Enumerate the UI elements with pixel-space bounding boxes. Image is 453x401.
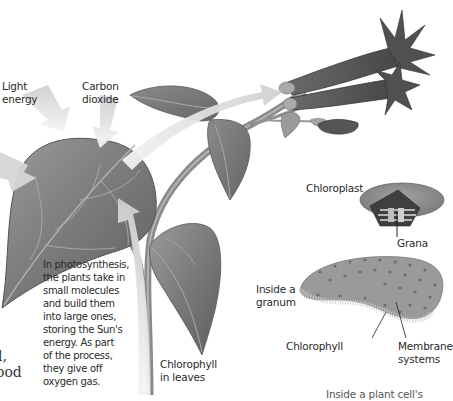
label-grana: Grana <box>397 237 428 250</box>
paragraph-line: In photosynthesis, <box>43 258 129 271</box>
paragraph-line: small molecules <box>43 284 129 297</box>
cropped-text-line-2: ood <box>0 364 22 381</box>
paragraph-line: they give off <box>43 362 129 375</box>
label-chlorophyll-in-leaves: Chlorophyll in leaves <box>160 358 217 384</box>
middle-leaf <box>208 120 251 200</box>
cropped-text-line-1: l, <box>0 348 7 365</box>
paragraph-line: storing the Sun's <box>43 323 129 336</box>
chloroplast-illustration <box>360 183 444 237</box>
label-bottom-caption: Inside a plant cell's <box>326 388 423 401</box>
granum-illustration <box>300 257 443 338</box>
photosynthesis-paragraph: In photosynthesis, the plants take in sm… <box>43 258 129 388</box>
paragraph-line: the plants take in <box>43 271 129 284</box>
paragraph-line: oxygen gas. <box>43 375 129 388</box>
chlorophyll-pointer <box>372 312 386 338</box>
flowers <box>279 10 435 134</box>
small-leaf <box>281 112 300 138</box>
paragraph-line: into large ones, <box>43 310 129 323</box>
label-light-energy: Light energy <box>2 80 37 106</box>
label-carbon-dioxide: Carbon dioxide <box>82 80 119 106</box>
label-inside-granum: Inside a granum <box>256 283 296 309</box>
label-chlorophyll: Chlorophyll <box>286 340 343 353</box>
paragraph-line: energy. As part <box>43 336 129 349</box>
label-chloroplast: Chloroplast <box>306 182 363 195</box>
paragraph-line: and build them <box>43 297 129 310</box>
label-membrane-systems: Membrane systems <box>398 340 453 366</box>
paragraph-line: of the process, <box>43 349 129 362</box>
lower-leaf <box>149 223 220 355</box>
